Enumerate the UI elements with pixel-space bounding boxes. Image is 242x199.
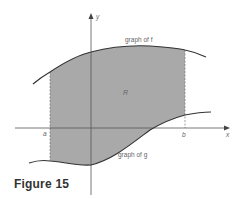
region-between-curves-diagram: graph of f graph of g R a b x y	[0, 0, 242, 199]
shaded-region-r	[50, 46, 185, 165]
x-axis-arrow-icon	[224, 126, 230, 131]
graph-of-f-label: graph of f	[125, 36, 153, 44]
region-r-label: R	[123, 89, 128, 96]
y-axis-arrow-icon	[89, 13, 94, 19]
graph-of-g-label: graph of g	[118, 151, 148, 159]
figure-caption: Figure 15	[14, 177, 69, 191]
y-axis-label: y	[95, 13, 100, 21]
a-label: a	[43, 130, 47, 137]
b-label: b	[182, 131, 186, 138]
x-axis-label: x	[225, 131, 230, 138]
